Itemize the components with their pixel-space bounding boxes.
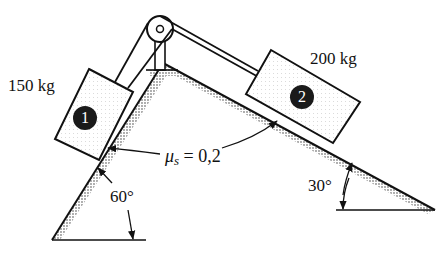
pulley	[147, 16, 173, 42]
block-1-mass-label: 150 kg	[8, 77, 55, 94]
mu-subscript: s	[174, 153, 179, 168]
right-incline-angle-label: 30°	[308, 177, 332, 194]
angle-arrows	[98, 163, 352, 239]
block-2-number-badge: 2	[290, 85, 314, 109]
block-1-number-badge: 1	[73, 106, 97, 130]
mu-symbol: μ	[165, 146, 174, 166]
left-incline-angle-label: 60°	[110, 188, 134, 205]
diagram-canvas: 150 kg 200 kg 1 2 μs = 0,2 60° 30°	[0, 0, 448, 262]
mu-value: = 0,2	[184, 146, 221, 166]
reference-lines	[52, 210, 435, 240]
friction-coefficient-label: μs = 0,2	[165, 147, 221, 167]
incline-drawing	[0, 0, 448, 262]
block-2-mass-label: 200 kg	[310, 50, 357, 67]
